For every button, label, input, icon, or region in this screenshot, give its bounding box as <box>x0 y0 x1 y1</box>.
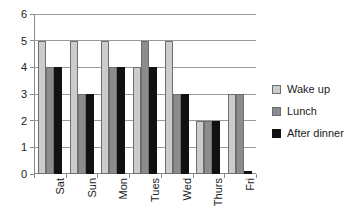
legend-item[interactable]: Lunch <box>272 106 344 117</box>
y-axis-tick-label: 3 <box>21 89 27 100</box>
bar <box>212 121 220 174</box>
bar <box>181 94 189 174</box>
x-axis-label: Sun <box>87 178 98 198</box>
x-axis-label: Tues <box>150 178 161 202</box>
legend-swatch-after-dinner-icon <box>272 129 281 138</box>
bar <box>70 41 78 174</box>
bar <box>149 67 157 174</box>
bar-group <box>66 14 98 174</box>
bar <box>101 41 109 174</box>
x-axis-tick <box>256 174 257 178</box>
x-axis-label: Thurs <box>213 178 224 206</box>
bar-group <box>129 14 161 174</box>
legend-swatch-lunch-icon <box>272 107 281 116</box>
bar-chart: 0123456 SatSunMonTuesWedThursFri Wake up… <box>0 0 352 219</box>
x-axis-label: Mon <box>118 178 129 199</box>
x-axis-label: Sat <box>55 178 66 195</box>
bar <box>196 121 204 174</box>
bar <box>228 94 236 174</box>
bar-group <box>193 14 225 174</box>
x-axis-label: Wed <box>182 178 193 200</box>
bar <box>204 121 212 174</box>
bar <box>46 67 54 174</box>
y-axis-tick-label: 4 <box>21 62 27 73</box>
bar-group <box>161 14 193 174</box>
y-axis-tick-label: 2 <box>21 115 27 126</box>
bar <box>141 41 149 174</box>
plot-area: 0123456 <box>34 14 256 174</box>
bar <box>236 94 244 174</box>
legend-item-label: After dinner <box>287 128 344 139</box>
bar-group <box>224 14 256 174</box>
y-axis-tick-label: 6 <box>21 9 27 20</box>
bar-group <box>97 14 129 174</box>
bar <box>117 67 125 174</box>
x-axis-tick <box>224 174 225 178</box>
bar <box>165 41 173 174</box>
y-axis-tick-label: 5 <box>21 35 27 46</box>
y-axis-tick-label: 1 <box>21 142 27 153</box>
bar <box>244 171 252 174</box>
bar <box>38 41 46 174</box>
x-axis-label: Fri <box>245 178 256 191</box>
legend-item[interactable]: Wake up <box>272 84 344 95</box>
legend-swatch-wake-up-icon <box>272 85 281 94</box>
x-axis-tick <box>129 174 130 178</box>
bar <box>78 94 86 174</box>
bar <box>133 67 141 174</box>
legend-item-label: Lunch <box>287 106 317 117</box>
legend-item-label: Wake up <box>287 84 330 95</box>
bar <box>86 94 94 174</box>
x-axis-tick <box>34 174 35 178</box>
bar <box>173 94 181 174</box>
bar <box>109 67 117 174</box>
legend-item[interactable]: After dinner <box>272 128 344 139</box>
bar <box>54 67 62 174</box>
y-axis-tick-label: 0 <box>21 169 27 180</box>
bar-group <box>34 14 66 174</box>
chart-legend: Wake upLunchAfter dinner <box>272 84 344 139</box>
